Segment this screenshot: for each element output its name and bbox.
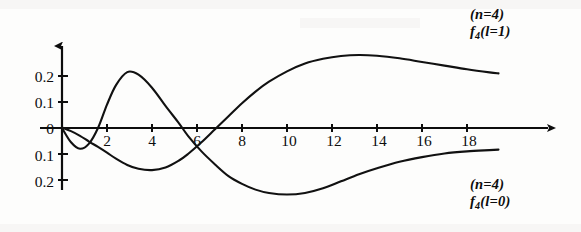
x-tick-label: 4 xyxy=(148,132,156,149)
series-rest: (l=1) xyxy=(480,23,510,39)
series-label-l1-line1: (n=4) xyxy=(470,6,510,23)
series-label-l0-line1: (n=4) xyxy=(470,176,510,193)
x-tick-label: 8 xyxy=(238,132,246,149)
y-tick-label: 0.2 xyxy=(35,173,54,190)
x-tick-label: 12 xyxy=(326,132,342,149)
x-tick-label: 10 xyxy=(281,132,297,149)
y-tick-label: 0.1 xyxy=(35,147,54,164)
x-tick-label: 16 xyxy=(416,132,432,149)
curve-f4-l1 xyxy=(62,71,499,194)
series-label-l1-line2: f4(l=1) xyxy=(470,23,510,42)
figure-canvas: 2 4 6 8 10 12 14 16 18 0.2 0.1 0 0.1 0.2… xyxy=(0,0,581,232)
y-tick-label: 0.2 xyxy=(35,68,54,85)
y-tick-label: 0.1 xyxy=(35,94,54,111)
series-label-l0: (n=4) f4(l=0) xyxy=(470,176,510,212)
series-rest: (l=0) xyxy=(480,193,510,209)
y-tick-label: 0 xyxy=(46,120,54,137)
series-label-l0-line2: f4(l=0) xyxy=(470,193,510,212)
x-tick-label: 14 xyxy=(371,132,387,149)
x-tick-label: 2 xyxy=(103,132,111,149)
x-tick-label: 18 xyxy=(461,132,477,149)
series-label-l1: (n=4) f4(l=1) xyxy=(470,6,510,42)
